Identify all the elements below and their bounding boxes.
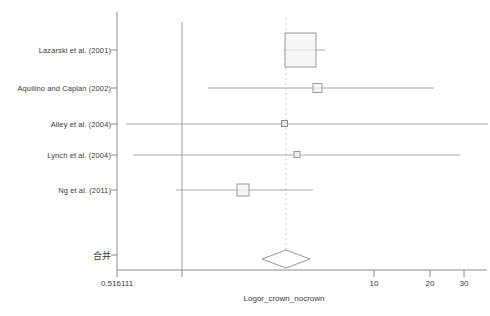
- summary-diamond: [262, 250, 310, 268]
- effect-marker-square: [294, 152, 300, 158]
- x-tick-label-0: 0.516111: [101, 279, 133, 288]
- study-row-1: [208, 84, 434, 93]
- study-label-ng: Ng et al. (2011): [58, 186, 111, 195]
- x-axis-title: Logor_crown_nocrown: [244, 294, 325, 303]
- study-row-2: [126, 121, 488, 127]
- effect-marker-square: [282, 121, 288, 127]
- study-row-4: [176, 184, 313, 196]
- summary-row: [262, 250, 310, 268]
- x-tick-label-20: 20: [426, 279, 435, 288]
- effect-marker-square: [237, 184, 249, 196]
- x-tick-label-30: 30: [460, 279, 469, 288]
- effect-marker-square: [285, 33, 316, 67]
- study-label-alley: Alley et al. (2004): [51, 120, 111, 129]
- study-row-0: [284, 33, 325, 67]
- forest-plot: Lazarski et al. (2001) Aquilino and Capl…: [0, 0, 490, 316]
- effect-marker-square: [313, 84, 322, 93]
- study-label-aquilino: Aquilino and Caplan (2002): [18, 84, 112, 93]
- summary-label: 合并: [93, 249, 111, 262]
- study-label-lynch: Lynch et al. (2004): [47, 151, 111, 160]
- x-tick-label-10: 10: [370, 279, 379, 288]
- study-label-lazarski: Lazarski et al. (2001): [39, 46, 111, 55]
